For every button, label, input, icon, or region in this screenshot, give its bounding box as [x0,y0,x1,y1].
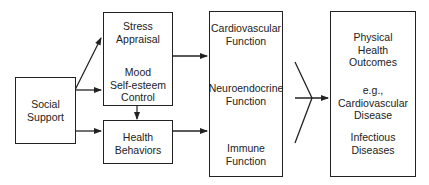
mood-label: Mood Self-esteem Control [103,66,173,104]
cardiovascular-label: Cardiovascular Function [209,22,283,47]
outcomes-infectious-label: Infectious Diseases [330,131,416,156]
outcomes-example-label: e.g., Cardiovascular Disease [327,84,419,122]
neuroendocrine-label: Neuroendocrine Function [206,82,286,107]
stress-appraisal-label: Stress Appraisal [103,20,173,45]
converging-lines [295,62,312,143]
social-support-label: Social Support [15,98,76,123]
outcomes-title-label: Physical Health Outcomes [330,31,416,69]
arrow-support-to-stress [75,38,101,90]
immune-label: Immune Function [209,142,283,167]
health-behaviors-label: Health Behaviors [103,131,173,156]
